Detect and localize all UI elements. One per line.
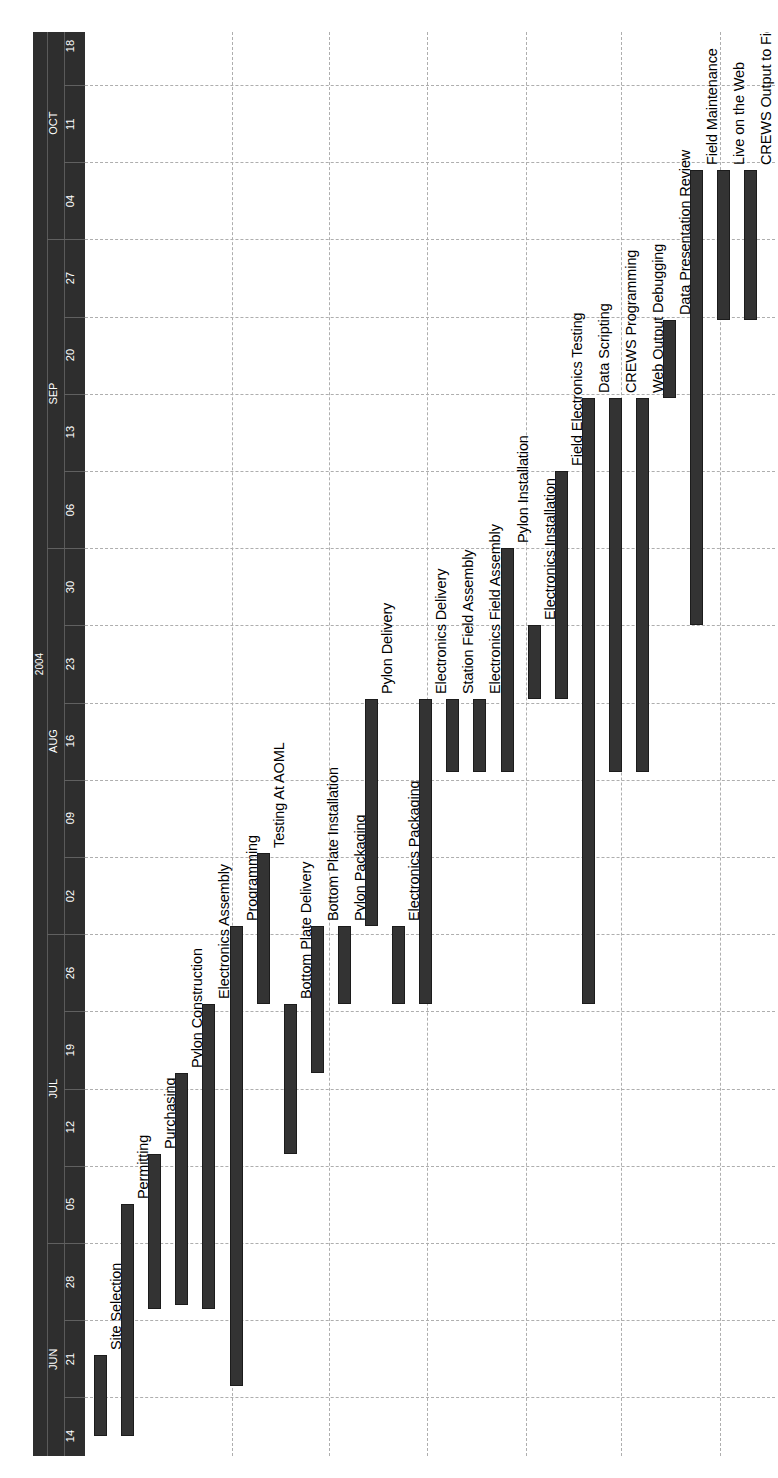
time-gridline xyxy=(85,85,775,86)
gantt-bar[interactable] xyxy=(473,699,486,772)
gantt-bar[interactable] xyxy=(94,1355,107,1436)
time-gridline xyxy=(85,471,775,472)
time-gridline xyxy=(85,1089,775,1090)
time-tick-18: 18 xyxy=(64,32,76,66)
week-cell-divider xyxy=(64,1166,85,1167)
month-label-jul: JUL xyxy=(47,934,59,1243)
week-cell-divider xyxy=(64,317,85,318)
time-tick-02: 02 xyxy=(64,876,76,916)
gantt-bar[interactable] xyxy=(609,398,622,772)
gantt-bar[interactable] xyxy=(663,320,676,397)
gantt-bar[interactable] xyxy=(528,625,541,698)
week-cell-divider xyxy=(64,85,85,86)
gantt-bar[interactable] xyxy=(257,853,270,1004)
time-gridline xyxy=(85,239,775,240)
gantt-bar[interactable] xyxy=(230,926,243,1385)
gantt-bar[interactable] xyxy=(690,170,703,625)
time-tick-12: 12 xyxy=(64,1107,76,1147)
time-tick-28: 28 xyxy=(64,1262,76,1302)
week-cell-divider xyxy=(64,548,85,549)
week-cell-divider xyxy=(64,1243,85,1244)
gantt-bar[interactable] xyxy=(148,1154,161,1308)
month-cell-divider xyxy=(47,239,64,240)
gantt-bar[interactable] xyxy=(744,170,757,321)
time-tick-16: 16 xyxy=(64,721,76,761)
time-gridline xyxy=(85,162,775,163)
gantt-bar[interactable] xyxy=(311,926,324,1073)
time-gridline xyxy=(85,625,775,626)
week-cell-divider xyxy=(64,857,85,858)
time-tick-20: 20 xyxy=(64,335,76,375)
time-gridline xyxy=(85,1166,775,1167)
gantt-bar-label: Testing At AOML xyxy=(271,742,287,848)
gantt-bar-label: Pylon Installation xyxy=(515,435,531,543)
time-gridline xyxy=(85,1320,775,1321)
week-cell-divider xyxy=(64,1011,85,1012)
week-cell-divider xyxy=(64,394,85,395)
gantt-bar[interactable] xyxy=(202,1004,215,1309)
gantt-bar[interactable] xyxy=(717,170,730,321)
month-label-oct: OCT xyxy=(47,32,59,239)
gantt-bar[interactable] xyxy=(338,926,351,1003)
month-cell-divider xyxy=(47,548,64,549)
week-cell-divider xyxy=(64,471,85,472)
month-cell-divider xyxy=(47,1243,64,1244)
gantt-bar-label: Field Maintenance xyxy=(704,48,720,165)
week-cell-divider xyxy=(64,1320,85,1321)
time-tick-27: 27 xyxy=(64,258,76,298)
time-gridline xyxy=(85,317,775,318)
gantt-bar[interactable] xyxy=(555,471,568,699)
gantt-bar[interactable] xyxy=(392,926,405,1003)
week-cell-divider xyxy=(64,1397,85,1398)
gantt-bar-label: Bottom Plate Installation xyxy=(325,768,341,922)
time-tick-30: 30 xyxy=(64,567,76,607)
time-gridline xyxy=(85,1397,775,1398)
task-gridline xyxy=(526,32,527,1456)
gantt-bar-label: CREWS Output to Field xyxy=(758,32,774,165)
gantt-bar[interactable] xyxy=(501,548,514,772)
gantt-bar-label: CREWS Programming xyxy=(623,249,639,392)
time-tick-13: 13 xyxy=(64,412,76,452)
gantt-bar-label: Electronics Delivery xyxy=(433,568,449,693)
gantt-bar-label: Station Field Assembly xyxy=(460,549,476,693)
week-cell-divider xyxy=(64,934,85,935)
gantt-bar[interactable] xyxy=(121,1204,134,1436)
time-tick-05: 05 xyxy=(64,1184,76,1224)
time-tick-11: 11 xyxy=(64,104,76,144)
week-cell-divider xyxy=(64,1089,85,1090)
time-tick-21: 21 xyxy=(64,1339,76,1379)
time-tick-09: 09 xyxy=(64,798,76,838)
gantt-bar[interactable] xyxy=(446,699,459,772)
time-tick-04: 04 xyxy=(64,181,76,221)
week-cell-divider xyxy=(64,162,85,163)
gantt-bar[interactable] xyxy=(175,1073,188,1305)
gantt-bar-label: Live on the Web xyxy=(731,62,747,165)
month-label-jun: JUN xyxy=(47,1243,59,1456)
time-tick-14: 14 xyxy=(64,1416,76,1456)
time-gridline xyxy=(85,548,775,549)
month-label-sep: SEP xyxy=(47,239,59,548)
time-axis-header: 14212805121926020916233006132027041118JU… xyxy=(33,32,85,1456)
month-label-aug: AUG xyxy=(47,548,59,934)
time-gridline xyxy=(85,1243,775,1244)
gantt-bar-label: Data Scripting xyxy=(596,303,612,393)
week-cell-divider xyxy=(64,703,85,704)
month-cell-divider xyxy=(47,934,64,935)
gantt-bar[interactable] xyxy=(365,699,378,927)
time-tick-23: 23 xyxy=(64,644,76,684)
gantt-bar[interactable] xyxy=(284,1004,297,1155)
time-tick-19: 19 xyxy=(64,1030,76,1070)
week-cell-divider xyxy=(64,625,85,626)
gantt-bar[interactable] xyxy=(582,398,595,1004)
year-label: 2004 xyxy=(34,624,45,704)
gantt-bar-label: Pylon Delivery xyxy=(379,602,395,693)
plot-area: Site SelectionPermittingPurchasingPylon … xyxy=(85,32,775,1456)
time-tick-06: 06 xyxy=(64,490,76,530)
gantt-chart-page: 14212805121926020916233006132027041118JU… xyxy=(0,0,778,1478)
gantt-bar[interactable] xyxy=(419,699,432,1004)
week-cell-divider xyxy=(64,239,85,240)
week-cell-divider xyxy=(64,780,85,781)
task-gridline xyxy=(329,32,330,1456)
gantt-bar[interactable] xyxy=(636,398,649,772)
time-tick-26: 26 xyxy=(64,953,76,993)
